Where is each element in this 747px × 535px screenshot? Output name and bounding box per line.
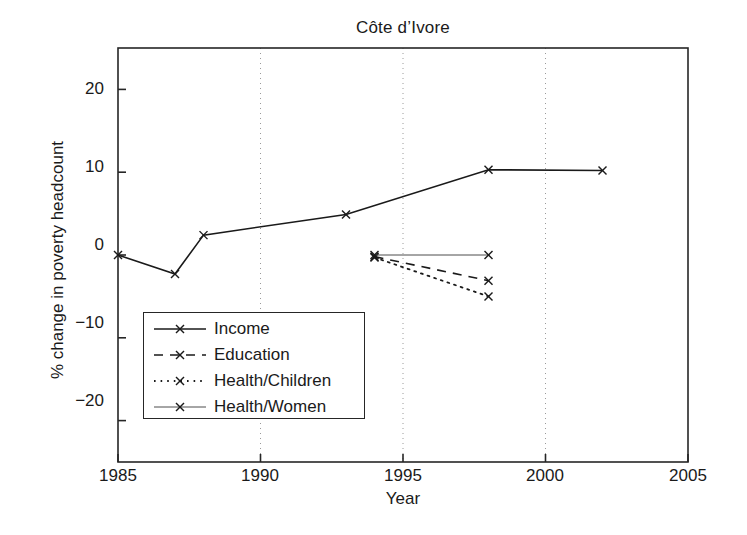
legend-label-income: Income [214,319,270,339]
legend-item-education: Education [152,342,290,368]
legend: Income Education [143,312,365,419]
legend-label-health-women: Health/Women [214,397,326,417]
legend-swatch-dashed-icon [152,345,208,365]
marker-x-icon [485,292,493,300]
chart-figure: Côte d’Ivore % change in poverty headcou… [0,0,747,535]
legend-label-education: Education [214,345,290,365]
legend-item-health-children: Health/Children [152,368,331,394]
legend-swatch-solid-icon [152,319,208,339]
legend-item-health-women: Health/Women [152,394,326,420]
marker-x-icon [171,270,179,278]
legend-swatch-thin-solid-icon [152,397,208,417]
legend-item-income: Income [152,316,270,342]
legend-label-health-children: Health/Children [214,371,331,391]
series-line-education [375,257,489,281]
plot-area [0,0,747,535]
series-line-income [118,170,603,274]
legend-swatch-dotted-icon [152,371,208,391]
data-series-group [114,166,607,301]
